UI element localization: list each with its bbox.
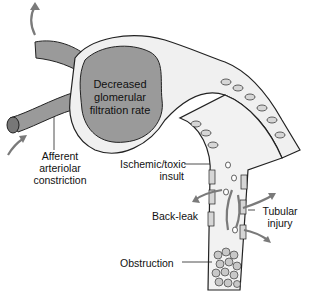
efferent-flow-arrow — [31, 6, 35, 35]
tubular-injury-arrow-down — [244, 230, 268, 240]
ischemic-insult-label: Ischemic/toxic insult — [120, 158, 184, 182]
gfr-label: Decreased glomerular filtration rate — [82, 78, 158, 117]
obstruction-label: Obstruction — [120, 257, 174, 269]
afferent-opening — [7, 117, 19, 133]
afferent-constriction-label: Afferent arteriolar constriction — [20, 150, 100, 186]
diagram-canvas: Decreased glomerular filtration rate Aff… — [0, 0, 319, 301]
backleak-label: Back-leak — [152, 210, 198, 222]
tubular-injury-label: Tubular injury — [255, 205, 305, 229]
